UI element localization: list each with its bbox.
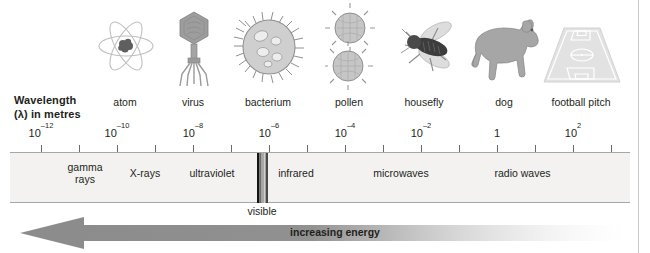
tick-mantissa: 10 xyxy=(565,127,577,139)
tick-mantissa: 10 xyxy=(259,127,271,139)
axis-tick xyxy=(535,145,536,152)
wavelength-title-line2: (λ) in metres xyxy=(14,108,81,122)
atom-icon xyxy=(95,2,157,90)
tick-mantissa: 10 xyxy=(105,127,117,139)
visible-light-strip xyxy=(257,153,268,203)
band-label-gamma-rays: gamma rays xyxy=(55,161,115,185)
tick-label-1e-12: 10–12 xyxy=(11,125,71,139)
object-label-football-pitch: football pitch xyxy=(531,96,631,108)
axis-tick xyxy=(497,145,498,152)
axis-tick xyxy=(573,145,574,152)
axis-tick xyxy=(117,145,118,152)
football-pitch-icon xyxy=(540,24,624,88)
axis-tick xyxy=(611,145,612,152)
housefly-icon xyxy=(390,2,460,90)
object-label-pollen: pollen xyxy=(309,96,389,108)
tick-exponent: –4 xyxy=(347,121,355,130)
band-label-radio-waves: radio waves xyxy=(475,167,570,179)
tick-exponent: –10 xyxy=(117,121,130,130)
tick-exponent: –2 xyxy=(423,121,431,130)
tick-mantissa: 10 xyxy=(29,127,41,139)
tick-label-1e2: 102 xyxy=(543,125,603,139)
object-label-virus: virus xyxy=(153,96,233,108)
axis-tick xyxy=(79,145,80,152)
tick-label-1e-2: 10–2 xyxy=(391,125,451,139)
axis-tick xyxy=(193,145,194,152)
tick-label-1e-6: 10–6 xyxy=(239,125,299,139)
band-label-x-rays: X-rays xyxy=(115,167,175,179)
pollen-icon xyxy=(325,2,375,90)
increasing-energy-label: increasing energy xyxy=(275,226,395,238)
band-label-ultraviolet: ultraviolet xyxy=(172,167,252,179)
tick-mantissa: 10 xyxy=(335,127,347,139)
tick-label-1e-4: 10–4 xyxy=(315,125,375,139)
tick-label-1: 1 xyxy=(467,125,527,139)
dog-icon xyxy=(468,2,542,90)
tick-label-1e-8: 10–8 xyxy=(163,125,223,139)
em-spectrum-figure: atom virus bacterium pollen housefly dog… xyxy=(0,0,650,253)
object-label-bacterium: bacterium xyxy=(223,96,313,108)
wavelength-title-line1: Wavelength xyxy=(14,94,81,108)
axis-tick xyxy=(307,145,308,152)
axis-tick xyxy=(269,145,270,152)
tick-label-1e-10: 10–10 xyxy=(87,125,147,139)
band-label-infrared: infrared xyxy=(261,167,331,179)
tick-mantissa: 10 xyxy=(183,127,195,139)
band-label-gamma-line2: rays xyxy=(55,173,115,185)
axis-tick xyxy=(421,145,422,152)
axis-tick xyxy=(383,145,384,152)
tick-mantissa: 10 xyxy=(411,127,423,139)
tick-mantissa: 1 xyxy=(494,127,500,139)
tick-exponent: –12 xyxy=(41,121,54,130)
band-label-gamma-line1: gamma xyxy=(55,161,115,173)
wavelength-axis-title: Wavelength (λ) in metres xyxy=(14,94,81,121)
axis-tick xyxy=(155,145,156,152)
bacterium-icon xyxy=(232,2,304,90)
virus-icon xyxy=(164,2,224,90)
object-label-housefly: housefly xyxy=(384,96,464,108)
axis-tick xyxy=(345,145,346,152)
tick-exponent: –6 xyxy=(271,121,279,130)
tick-exponent: 2 xyxy=(577,121,581,130)
axis-tick xyxy=(41,145,42,152)
axis-tick xyxy=(459,145,460,152)
band-label-microwaves: microwaves xyxy=(356,167,446,179)
tick-exponent: –8 xyxy=(195,121,203,130)
axis-tick xyxy=(231,145,232,152)
